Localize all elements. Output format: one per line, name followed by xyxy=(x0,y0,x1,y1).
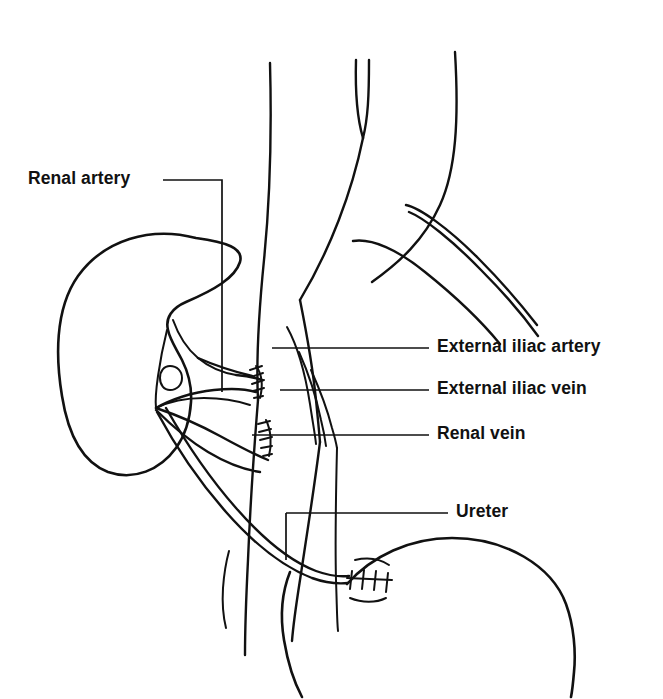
iliac-descending-limbs xyxy=(287,300,337,448)
label-external-iliac-artery: External iliac artery xyxy=(437,338,601,356)
transplanted-kidney xyxy=(58,234,240,475)
label-renal-vein: Renal vein xyxy=(437,425,526,443)
external-iliac-vein-vessel xyxy=(353,241,500,344)
inferior-vena-cava xyxy=(257,63,271,400)
label-renal-artery: Renal artery xyxy=(28,170,130,188)
label-external-iliac-vein: External iliac vein xyxy=(437,380,587,398)
aorta xyxy=(300,60,369,300)
figure-canvas: Renal artery External iliac artery Exter… xyxy=(0,0,663,699)
external-iliac-artery-vessel xyxy=(406,205,538,336)
leader-line-renal-artery xyxy=(163,180,222,392)
renal-vein-anastomosis xyxy=(258,420,272,456)
label-ureter: Ureter xyxy=(456,503,508,521)
leader-line-ureter xyxy=(286,513,448,560)
urinary-bladder xyxy=(282,538,575,697)
